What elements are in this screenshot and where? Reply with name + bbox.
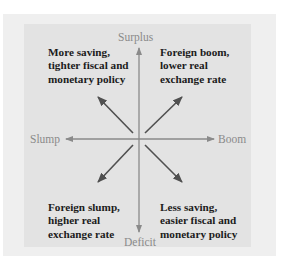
- quadrant-line: higher real: [48, 214, 120, 227]
- axis-label-deficit: Deficit: [124, 237, 156, 249]
- quadrant-line: Less saving,: [160, 201, 237, 214]
- quadrant-top-left: More saving, tighter fiscal and monetary…: [48, 46, 129, 86]
- quadrant-line: tighter fiscal and: [48, 59, 129, 72]
- quadrant-line: More saving,: [48, 46, 129, 59]
- quadrant-line: easier fiscal and: [160, 214, 237, 227]
- quadrant-bottom-right: Less saving, easier fiscal and monetary …: [160, 201, 237, 241]
- quadrant-line: monetary policy: [160, 228, 237, 241]
- quadrant-line: exchange rate: [48, 228, 120, 241]
- quadrant-line: exchange rate: [160, 73, 229, 86]
- axis-label-slump: Slump: [30, 134, 60, 146]
- quadrant-line: monetary policy: [48, 73, 129, 86]
- quadrant-line: lower real: [160, 59, 229, 72]
- quadrant-top-right: Foreign boom, lower real exchange rate: [160, 46, 229, 86]
- quadrant-line: Foreign boom,: [160, 46, 229, 59]
- quadrant-bottom-left: Foreign slump, higher real exchange rate: [48, 201, 120, 241]
- quadrant-line: Foreign slump,: [48, 201, 120, 214]
- axis-label-surplus: Surplus: [118, 32, 153, 44]
- axis-label-boom: Boom: [218, 134, 246, 146]
